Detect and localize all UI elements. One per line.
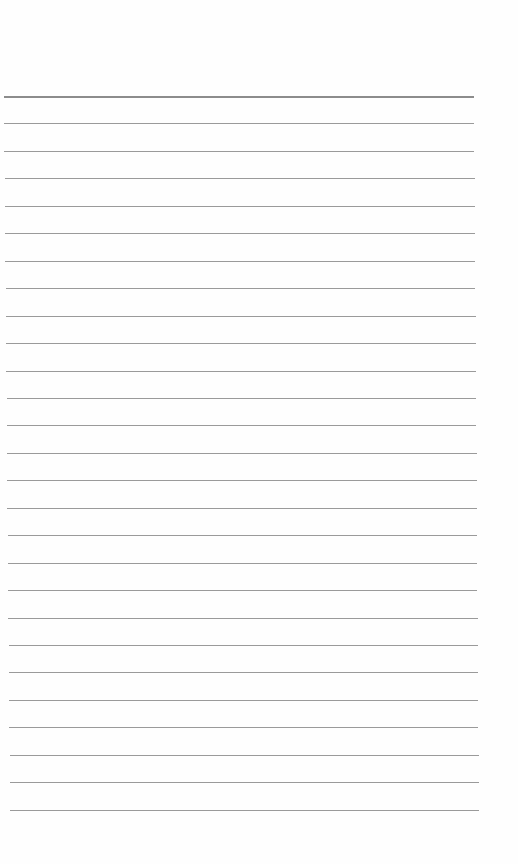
ruled-line xyxy=(10,755,479,756)
ruled-line xyxy=(6,288,476,289)
ruled-line xyxy=(7,508,476,509)
ruled-line xyxy=(7,398,477,399)
ruled-line xyxy=(8,590,477,591)
header-rule-line xyxy=(4,96,474,98)
ruled-line xyxy=(5,206,475,207)
lined-paper-sheet xyxy=(0,0,518,864)
ruled-line xyxy=(5,233,475,234)
ruled-line xyxy=(8,535,477,536)
ruled-line xyxy=(6,371,476,372)
ruled-line xyxy=(9,672,478,673)
ruled-line xyxy=(7,453,477,454)
ruled-line xyxy=(10,810,479,811)
ruled-line xyxy=(5,178,475,179)
ruled-line xyxy=(4,123,474,124)
ruled-line xyxy=(5,261,475,262)
ruled-line xyxy=(9,645,478,646)
ruled-line xyxy=(8,563,477,564)
ruled-line xyxy=(6,343,476,344)
ruled-line xyxy=(9,727,478,728)
ruled-line xyxy=(7,480,476,481)
ruled-line xyxy=(8,618,477,619)
ruled-line xyxy=(4,151,474,152)
ruled-line xyxy=(6,316,476,317)
ruled-line xyxy=(9,700,478,701)
ruled-line xyxy=(7,425,477,426)
ruled-line xyxy=(10,782,479,783)
